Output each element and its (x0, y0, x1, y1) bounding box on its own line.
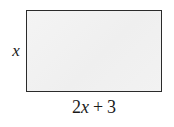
width-label: 2x+3 (26, 97, 162, 118)
rectangle-figure: x 2x+3 (0, 0, 174, 127)
width-label-coefficient: 2 (72, 97, 81, 117)
height-label: x (8, 40, 24, 62)
width-label-constant: 3 (107, 97, 116, 117)
width-label-operator: + (93, 97, 103, 117)
rectangle-shape (26, 10, 162, 92)
width-label-variable: x (81, 97, 89, 117)
